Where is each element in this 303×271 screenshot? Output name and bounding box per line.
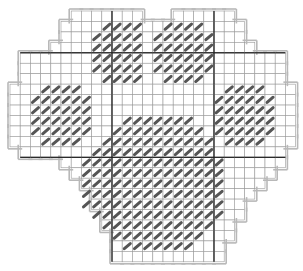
- grid-cell: [183, 105, 193, 115]
- grid-cell: [194, 95, 204, 105]
- grid-cell: [71, 157, 81, 167]
- grid-cell: [214, 84, 224, 94]
- grid-cell: [30, 74, 40, 84]
- grid-cell: [112, 11, 122, 21]
- grid-cell: [51, 63, 61, 73]
- grid-cell: [71, 147, 81, 157]
- grid-cell: [234, 168, 244, 178]
- grid-cell: [194, 84, 204, 94]
- cross-stitch-chart: [0, 0, 303, 271]
- grid-cell: [102, 11, 112, 21]
- grid-cell: [214, 74, 224, 84]
- grid-cell: [275, 95, 285, 105]
- grid-cell: [71, 53, 81, 63]
- grid-cell: [81, 32, 91, 42]
- grid-cell: [20, 126, 30, 136]
- grid-cell: [214, 42, 224, 52]
- grid-cell: [61, 53, 71, 63]
- grid-cell: [224, 199, 234, 209]
- grid-cell: [224, 157, 234, 167]
- grid-cell: [30, 84, 40, 94]
- grid-cell: [112, 251, 122, 261]
- grid-cell: [245, 168, 255, 178]
- grid-cell: [92, 116, 102, 126]
- grid-cell: [102, 105, 112, 115]
- grid-cell: [92, 105, 102, 115]
- grid-cell: [204, 21, 214, 31]
- grid-cell: [224, 74, 234, 84]
- grid-cell: [214, 53, 224, 63]
- grid-cell: [234, 42, 244, 52]
- grid-cell: [81, 84, 91, 94]
- grid-cell: [112, 241, 122, 251]
- grid-cell: [214, 251, 224, 261]
- grid-cell: [61, 42, 71, 52]
- grid-cell: [245, 74, 255, 84]
- grid-cell: [143, 251, 153, 261]
- grid-cell: [30, 53, 40, 63]
- grid-cell: [265, 74, 275, 84]
- grid-cell: [224, 21, 234, 31]
- grid-cell: [153, 251, 163, 261]
- grid-cell: [10, 95, 20, 105]
- grid-cell: [112, 105, 122, 115]
- grid-cell: [122, 11, 132, 21]
- grid-cell: [92, 136, 102, 146]
- grid-cell: [194, 251, 204, 261]
- grid-cell: [81, 136, 91, 146]
- grid-cell: [92, 84, 102, 94]
- grid-cell: [81, 74, 91, 84]
- grid-cell: [265, 53, 275, 63]
- grid-cell: [204, 95, 214, 105]
- grid-cell: [214, 11, 224, 21]
- grid-cell: [234, 63, 244, 73]
- grid-cell: [285, 105, 295, 115]
- grid-cell: [204, 230, 214, 240]
- grid-cell: [234, 178, 244, 188]
- grid-cell: [173, 251, 183, 261]
- grid-cell: [102, 126, 112, 136]
- grid-cell: [102, 116, 112, 126]
- grid-cell: [132, 84, 142, 94]
- grid-cell: [102, 84, 112, 94]
- grid-cell: [214, 230, 224, 240]
- grid-cell: [41, 74, 51, 84]
- grid-cell: [132, 251, 142, 261]
- grid-cell: [30, 63, 40, 73]
- grid-cell: [204, 251, 214, 261]
- grid-cell: [143, 53, 153, 63]
- grid-cell: [81, 63, 91, 73]
- grid-cell: [275, 53, 285, 63]
- grid-cell: [194, 105, 204, 115]
- grid-cell: [224, 178, 234, 188]
- grid-cell: [204, 116, 214, 126]
- grid-cell: [143, 84, 153, 94]
- grid-cell: [245, 157, 255, 167]
- grid-cell: [20, 53, 30, 63]
- grid-cell: [81, 21, 91, 31]
- grid-cell: [122, 251, 132, 261]
- grid-cell: [163, 84, 173, 94]
- grid-cell: [285, 116, 295, 126]
- grid-cell: [20, 84, 30, 94]
- grid-cell: [163, 251, 173, 261]
- grid-cell: [275, 105, 285, 115]
- grid-cell: [143, 105, 153, 115]
- grid-cell: [163, 105, 173, 115]
- grid-cell: [204, 11, 214, 21]
- grid-cell: [265, 157, 275, 167]
- grid-cell: [204, 74, 214, 84]
- grid-cell: [255, 157, 265, 167]
- grid-cell: [275, 136, 285, 146]
- grid-cell: [143, 74, 153, 84]
- stitch-mark: [84, 191, 90, 196]
- grid-cell: [265, 136, 275, 146]
- grid-cell: [20, 116, 30, 126]
- grid-cell: [61, 63, 71, 73]
- grid-cell: [183, 84, 193, 94]
- grid-cell: [234, 157, 244, 167]
- grid-cell: [143, 63, 153, 73]
- grid-cell: [265, 63, 275, 73]
- grid-cell: [10, 116, 20, 126]
- grid-cell: [245, 178, 255, 188]
